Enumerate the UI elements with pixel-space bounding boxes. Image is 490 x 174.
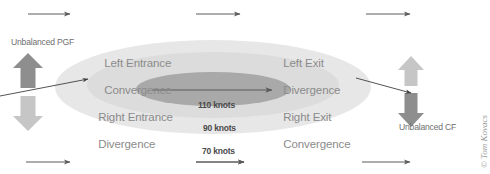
quadrant-right-exit-line2: Convergence <box>283 138 350 150</box>
quadrant-left-entrance-line2: Convergence <box>104 84 171 96</box>
credit-text: © Tom Kovacs <box>479 115 489 168</box>
quadrant-left-entrance-line1: Left Entrance <box>104 57 171 69</box>
unbalanced-cf-label: Unbalanced CF <box>399 122 456 132</box>
unbalanced-pgf-arrows <box>13 53 43 131</box>
quadrant-right-entrance-line2: Divergence <box>98 138 155 150</box>
quadrant-left-exit-line2: Divergence <box>283 84 340 96</box>
jet-streak-diagram <box>0 0 490 174</box>
quadrant-right-exit-line1: Right Exit <box>283 111 331 123</box>
quadrant-right-entrance-line1: Right Entrance <box>98 111 173 123</box>
quadrant-label-right-exit: Right Exit Convergence <box>277 97 351 151</box>
quadrant-left-exit-line1: Left Exit <box>283 57 324 69</box>
isotach-label-110-knots: 110 knots <box>198 100 235 110</box>
up-arrow-icon <box>13 53 43 88</box>
down-arrow-icon <box>13 96 43 131</box>
isotach-label-90-knots: 90 knots <box>203 123 236 133</box>
up-arrow-icon <box>398 56 424 86</box>
quadrant-label-left-entrance: Left Entrance Convergence <box>98 43 172 97</box>
quadrant-label-right-entrance: Right Entrance Divergence <box>92 97 173 151</box>
unbalanced-pgf-label: Unbalanced PGF <box>11 37 74 47</box>
isotach-label-70-knots: 70 knots <box>202 146 235 156</box>
unbalanced-cf-arrows <box>398 56 424 127</box>
quadrant-label-left-exit: Left Exit Divergence <box>277 43 340 97</box>
